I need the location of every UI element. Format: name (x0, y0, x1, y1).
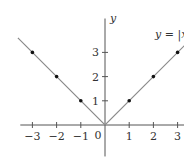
data-point (176, 51, 180, 55)
x-tick-label: 1 (126, 130, 133, 143)
y-tick-label: 2 (92, 71, 99, 84)
x-tick-label: −1 (73, 130, 89, 143)
data-point (152, 75, 156, 79)
y-axis-label: y (109, 12, 117, 25)
data-point (55, 75, 59, 79)
series (18, 38, 184, 125)
data-point (127, 99, 131, 103)
x-tick-label: −3 (24, 130, 40, 143)
x-tick-label: −2 (48, 130, 64, 143)
origin-label: 0 (95, 129, 102, 142)
y-tick-label: 3 (92, 46, 99, 59)
function-label: y = |x (154, 28, 184, 42)
series-line-abs (18, 38, 184, 125)
chart: −3−2−1123123 y 0 y = |x (0, 0, 184, 168)
x-tick-label: 2 (150, 130, 157, 143)
data-point (31, 51, 35, 55)
data-point (79, 99, 83, 103)
ticks: −3−2−1123123 (24, 46, 181, 143)
y-tick-label: 1 (92, 95, 99, 108)
x-tick-label: 3 (174, 130, 181, 143)
